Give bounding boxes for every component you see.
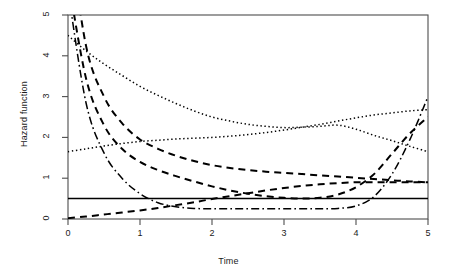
x-axis-label: Time: [0, 256, 457, 266]
series-line-decreasing-hazard-steep: [68, 0, 428, 182]
x-tick-label: 2: [202, 228, 222, 238]
series-line-increasing-hazard: [68, 182, 428, 218]
y-tick-label: 4: [41, 45, 51, 65]
data-series-group: [68, 0, 428, 218]
plot-box: [68, 15, 428, 219]
series-line-bathtub-hazard-dashdot: [68, 0, 428, 209]
y-tick-label: 0: [41, 208, 51, 228]
y-axis-label: Hazard function: [19, 44, 29, 184]
y-tick-label: 3: [41, 86, 51, 106]
y-tick-label: 2: [41, 126, 51, 146]
x-tick-label: 0: [58, 228, 78, 238]
series-line-increasing-hazard-dotted: [68, 110, 428, 152]
series-line-bathtub-hazard-dashed: [68, 0, 428, 199]
x-tick-label: 1: [130, 228, 150, 238]
x-tick-label: 5: [418, 228, 438, 238]
x-tick-label: 3: [274, 228, 294, 238]
y-tick-label: 5: [41, 4, 51, 24]
y-tick-label: 1: [41, 167, 51, 187]
hazard-function-chart: Time Hazard function 012345 012345: [0, 0, 457, 279]
x-tick-label: 4: [346, 228, 366, 238]
